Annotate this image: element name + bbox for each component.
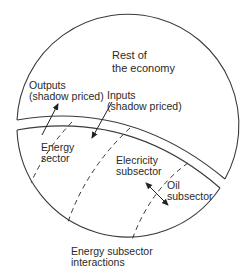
outputs-label: Outputs (shadow priced) xyxy=(29,80,104,102)
oil-subsector-label: Oil subsector xyxy=(167,180,213,202)
outputs-arrow xyxy=(42,104,58,135)
interaction-arrow xyxy=(146,183,168,205)
diagram-canvas xyxy=(0,0,245,275)
inputs-label: Inputs (shadow priced) xyxy=(107,90,182,112)
electricity-subsector-label: Elecricity subsector xyxy=(116,155,162,177)
rest-of-economy-label: Rest of the economy xyxy=(112,49,175,75)
energy-sector-label: Energy sector xyxy=(41,142,74,164)
caption: Energy subsector interactions xyxy=(71,246,153,268)
